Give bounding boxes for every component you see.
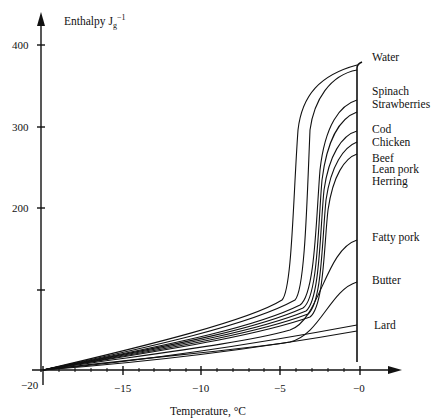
curve-chicken bbox=[43, 112, 357, 370]
label-water: Water bbox=[372, 51, 399, 63]
series-labels: Water Spinach Strawberries Cod Chicken B… bbox=[372, 51, 431, 331]
x-tick-label: −10 bbox=[192, 382, 210, 394]
label-strawberries: Strawberries bbox=[372, 98, 431, 110]
enthalpy-chart: 400 300 200 Enthalpy Jg−1 −20 −15 −10 −5… bbox=[0, 0, 443, 420]
curves bbox=[43, 62, 362, 370]
label-butter: Butter bbox=[372, 274, 401, 286]
x-tick-label: −15 bbox=[114, 382, 132, 394]
label-cod: Cod bbox=[372, 123, 391, 135]
y-axis-title: Enthalpy Jg−1 bbox=[64, 13, 125, 30]
label-herring: Herring bbox=[372, 175, 408, 188]
label-chicken: Chicken bbox=[372, 136, 411, 148]
x-tick-label: −20 bbox=[21, 379, 39, 391]
curve-water bbox=[357, 62, 362, 362]
curve-herring bbox=[43, 154, 357, 370]
label-fatty-pork: Fatty pork bbox=[372, 231, 420, 244]
x-axis-title: Temperature, °C bbox=[170, 405, 246, 418]
y-axis-arrow-icon bbox=[37, 12, 45, 26]
y-tick-label: 400 bbox=[12, 39, 29, 51]
x-tick-label: −5 bbox=[274, 382, 286, 394]
curve-strawberries bbox=[43, 70, 357, 370]
x-axis-arrow-icon bbox=[388, 366, 402, 374]
label-lard: Lard bbox=[374, 319, 396, 331]
label-spinach: Spinach bbox=[372, 85, 409, 98]
x-axis: −20 −15 −10 −5 −0 Temperature, °C bbox=[21, 366, 402, 418]
y-tick-label: 200 bbox=[12, 202, 29, 214]
y-axis: 400 300 200 Enthalpy Jg−1 bbox=[12, 12, 125, 372]
curve-spinach bbox=[43, 65, 357, 370]
y-tick-label: 300 bbox=[12, 121, 29, 133]
x-tick-label: −0 bbox=[353, 382, 365, 394]
curve-lean-pork bbox=[43, 142, 357, 370]
